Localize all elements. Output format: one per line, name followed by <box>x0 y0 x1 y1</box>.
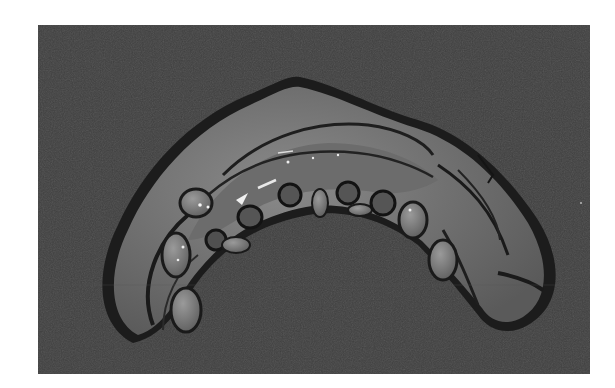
scan-viewport <box>38 25 590 374</box>
dental-cast-render <box>38 25 590 374</box>
